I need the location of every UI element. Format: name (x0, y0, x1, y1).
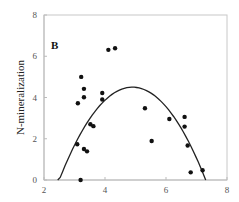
data-point (106, 48, 110, 52)
plot-frame (44, 15, 227, 180)
data-point (167, 117, 171, 121)
data-point (85, 149, 89, 153)
data-point (182, 115, 186, 119)
data-point (76, 101, 80, 105)
y-tick-label: 4 (33, 93, 38, 103)
data-point (185, 143, 189, 147)
data-point (91, 124, 95, 128)
data-point (143, 106, 147, 110)
data-point (100, 91, 104, 95)
x-tick-label: 4 (103, 185, 108, 195)
x-tick-label: 8 (225, 185, 230, 195)
y-tick-label: 8 (33, 10, 38, 20)
data-point (100, 97, 104, 101)
data-point (79, 75, 83, 79)
data-point (189, 170, 193, 174)
x-tick-label: 6 (164, 185, 169, 195)
data-point (78, 178, 82, 182)
data-point (182, 124, 186, 128)
panel-label: B (51, 39, 59, 51)
data-point (75, 142, 79, 146)
scatter-chart: 246802468N-mineralizationB (0, 0, 239, 202)
y-axis-label: N-mineralization (14, 59, 26, 135)
data-point (149, 139, 153, 143)
y-tick-label: 2 (33, 134, 38, 144)
fit-curve (58, 87, 206, 180)
x-tick-label: 2 (42, 185, 47, 195)
data-point (82, 87, 86, 91)
data-point (200, 168, 204, 172)
data-point (113, 46, 117, 50)
data-point (82, 95, 86, 99)
y-tick-label: 6 (33, 51, 38, 61)
y-tick-label: 0 (33, 175, 38, 185)
